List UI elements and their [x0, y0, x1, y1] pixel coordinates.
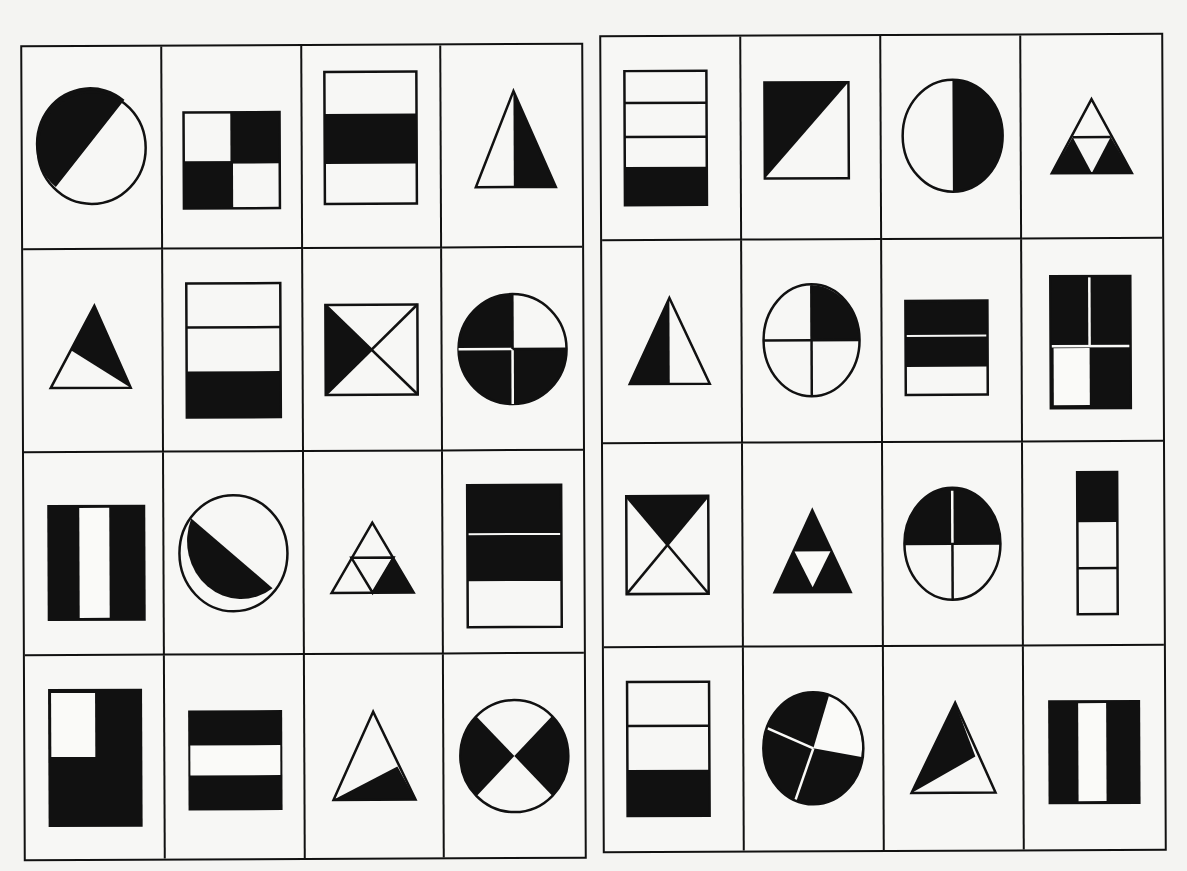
- triangle-shape-icon: [312, 477, 433, 628]
- triangle-shape-icon: [1031, 61, 1152, 212]
- cell-triangle-quarter[interactable]: [304, 451, 445, 655]
- circle-shape-icon: [173, 478, 294, 629]
- triangle-shape-icon: [451, 70, 572, 221]
- cell-rectangle-two-thirds[interactable]: [882, 239, 1023, 443]
- triangle-shape-icon: [313, 681, 434, 832]
- rectangle-shape-icon: [891, 265, 1012, 416]
- rectangle-shape-icon: [172, 275, 293, 426]
- rectangle-shape-icon: [613, 674, 734, 825]
- circle-shape-icon: [890, 61, 1011, 212]
- circle-shape-icon: [454, 680, 575, 831]
- cell-rectangle-two-thirds[interactable]: [443, 451, 584, 655]
- rectangle-shape-icon: [1034, 672, 1155, 823]
- right-fraction-grid: [599, 33, 1167, 853]
- cell-circle-half[interactable]: [444, 654, 585, 858]
- cell-rectangle-quarter[interactable]: [601, 37, 742, 241]
- cell-rectangle-two-thirds[interactable]: [165, 655, 306, 859]
- triangle-shape-icon: [893, 673, 1014, 824]
- square-shape-icon: [612, 469, 733, 620]
- rectangle-shape-icon: [453, 476, 574, 627]
- cell-triangle-three-quarters[interactable]: [743, 443, 884, 647]
- triangle-shape-icon: [611, 266, 732, 417]
- cell-rectangle-thirds[interactable]: [302, 45, 443, 249]
- rectangle-shape-icon: [174, 682, 295, 833]
- cell-triangle-half[interactable]: [602, 240, 743, 444]
- circle-shape-icon: [753, 673, 874, 824]
- cell-triangle-half[interactable]: [23, 250, 164, 454]
- left-fraction-grid: [20, 43, 587, 861]
- circle-shape-icon: [751, 265, 872, 416]
- cell-circle-half[interactable]: [881, 35, 1022, 239]
- cell-square-quarter[interactable]: [603, 444, 744, 648]
- square-shape-icon: [750, 62, 871, 213]
- cell-square-checker[interactable]: [162, 46, 303, 250]
- circle-shape-icon: [31, 72, 152, 223]
- cell-rectangle-three-quarters[interactable]: [1022, 238, 1163, 442]
- rectangle-shape-icon: [33, 478, 154, 629]
- rectangle-shape-icon: [1033, 468, 1154, 619]
- rectangle-shape-icon: [610, 62, 731, 213]
- cell-rectangle-three-quarters[interactable]: [25, 656, 166, 860]
- triangle-shape-icon: [32, 275, 153, 426]
- square-shape-icon: [312, 274, 433, 425]
- cell-triangle-half[interactable]: [304, 654, 445, 858]
- cell-rectangle-two-thirds[interactable]: [1024, 645, 1165, 849]
- cell-triangle-half[interactable]: [1021, 35, 1162, 239]
- cell-triangle-half[interactable]: [884, 646, 1025, 850]
- cell-rectangle-two-thirds[interactable]: [24, 453, 165, 657]
- rectangle-shape-icon: [311, 71, 432, 222]
- cell-square-quarter[interactable]: [303, 248, 444, 452]
- cell-circle-half[interactable]: [883, 442, 1024, 646]
- circle-shape-icon: [892, 468, 1013, 619]
- cell-circle-half[interactable]: [164, 452, 305, 656]
- cell-circle-half[interactable]: [22, 47, 163, 251]
- cell-triangle-half[interactable]: [441, 45, 582, 249]
- cell-rectangle-third[interactable]: [1023, 442, 1164, 646]
- cell-circle-three-quarters[interactable]: [744, 646, 885, 850]
- rectangle-shape-icon: [34, 682, 155, 833]
- cell-rectangle-thirds[interactable]: [163, 249, 304, 453]
- cell-circle-three-quarters[interactable]: [442, 248, 583, 452]
- square-shape-icon: [171, 72, 292, 223]
- cell-square-half[interactable]: [741, 36, 882, 240]
- cell-rectangle-third[interactable]: [604, 647, 745, 851]
- circle-shape-icon: [452, 273, 573, 424]
- rectangle-shape-icon: [1032, 264, 1153, 415]
- cell-circle-quarter[interactable]: [742, 240, 883, 444]
- triangle-shape-icon: [752, 469, 873, 620]
